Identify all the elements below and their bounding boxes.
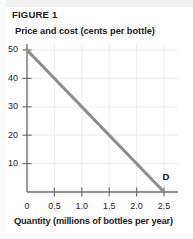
x-tick-label-2p0: 2.0 (130, 201, 143, 211)
y-tick-label-40: 40 (8, 73, 18, 83)
horizontal-gridlines (27, 50, 178, 164)
chart-plot-area: 50 40 30 20 10 0 0.5 1.0 1.5 2.0 2.5 D (0, 0, 193, 239)
y-tick-label-20: 20 (8, 130, 18, 140)
y-tick-label-30: 30 (8, 101, 18, 111)
y-tick-label-10: 10 (8, 158, 18, 168)
x-tick-label-2p5: 2.5 (158, 201, 171, 211)
x-tick-label-0p5: 0.5 (48, 201, 61, 211)
figure-panel: FIGURE 1 Price and cost (cents per bottl… (0, 0, 193, 239)
vertical-gridlines (54, 44, 164, 192)
demand-curve-label: D (163, 171, 170, 182)
demand-curve-line (27, 50, 164, 192)
x-tick-label-1p0: 1.0 (76, 201, 89, 211)
x-tick-label-1p5: 1.5 (103, 201, 116, 211)
y-tick-label-50: 50 (8, 44, 18, 54)
x-axis-title: Quantity (millions of bottles per year) (14, 216, 173, 226)
x-tick-label-0: 0 (24, 201, 29, 211)
